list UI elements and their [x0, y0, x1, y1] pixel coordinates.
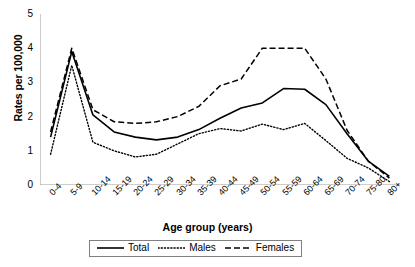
legend-swatch-males	[158, 244, 185, 252]
y-tick-label: 0	[11, 180, 33, 190]
y-tick-label: 5	[11, 9, 33, 19]
legend-item-total: Total	[97, 243, 149, 253]
legend-label: Females	[256, 243, 294, 253]
chart-figure: Rates per 100,000 012345 0-45-910-1415-1…	[0, 0, 415, 267]
legend-item-females: Females	[225, 243, 294, 253]
series-line-males	[51, 65, 390, 181]
y-tick-label: 4	[11, 43, 33, 53]
legend-item-males: Males	[158, 243, 216, 253]
y-tick-label: 3	[11, 77, 33, 87]
axis-lines	[40, 14, 400, 185]
x-axis-title: Age group (years)	[0, 221, 415, 233]
y-tick-label: 1	[11, 146, 33, 156]
legend-swatch-total	[97, 244, 124, 252]
chart-legend: TotalMalesFemales	[89, 240, 302, 257]
legend-swatch-females	[225, 244, 252, 252]
legend-label: Total	[128, 243, 149, 253]
y-tick-label: 2	[11, 112, 33, 122]
legend-label: Males	[189, 243, 216, 253]
series-line-total	[51, 52, 390, 177]
plot-area	[40, 14, 400, 185]
series-line-females	[51, 48, 390, 178]
plot-svg	[40, 14, 400, 185]
